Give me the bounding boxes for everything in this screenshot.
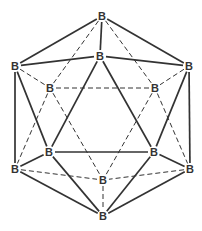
- bond-upper-right-lower-right: [189, 72, 190, 163]
- bond-upper-right-lower-front-right: [156, 72, 186, 147]
- bond-top-upper-front: [100, 22, 101, 50]
- icosahedron-diagram: BBBBBBBBBBBB: [0, 0, 202, 231]
- atom-back-upper-right: B: [151, 82, 159, 94]
- bond-lower-front-left-bottom: [53, 157, 99, 212]
- bond-upper-front-lower-front-right: [103, 61, 151, 147]
- atom-top: B: [98, 10, 106, 22]
- bond-lower-front-left-lower-left: [20, 155, 43, 167]
- atom-lower-front-left: B: [45, 146, 53, 158]
- atom-lower-right: B: [186, 163, 194, 175]
- atom-back-upper-left: B: [46, 82, 54, 94]
- atom-upper-right: B: [185, 60, 193, 72]
- atom-lower-left: B: [11, 163, 19, 175]
- bond-lower-front-right-lower-right: [159, 155, 184, 167]
- bond-back-upper-right-lower-right: [157, 94, 187, 164]
- bond-upper-front-upper-left: [21, 57, 94, 66]
- bond-back-upper-left-back-lower: [53, 93, 100, 175]
- atom-upper-front: B: [96, 50, 104, 62]
- diagram-canvas: BBBBBBBBBBBB: [0, 0, 202, 231]
- bond-upper-right-back-upper-right: [160, 69, 184, 84]
- bond-upper-left-back-upper-left: [20, 69, 45, 85]
- atom-upper-left: B: [11, 60, 19, 72]
- atom-lower-front-right: B: [150, 146, 158, 158]
- bond-top-upper-right: [107, 19, 184, 63]
- bond-top-upper-left: [20, 19, 97, 63]
- bond-top-back-upper-right: [106, 21, 152, 83]
- bond-back-upper-left-lower-left: [17, 94, 47, 164]
- bond-upper-front-upper-right: [106, 57, 183, 66]
- bond-upper-front-lower-front-left: [52, 61, 97, 146]
- atom-bottom: B: [99, 210, 107, 222]
- atom-back-lower: B: [99, 174, 107, 186]
